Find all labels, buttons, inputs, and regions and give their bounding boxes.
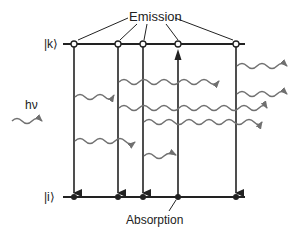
incident-photon-wave xyxy=(12,119,42,124)
absorption-label: Absorption xyxy=(126,213,183,227)
upper-level-label: |k⟩ xyxy=(44,37,58,51)
lower-level-label: |i⟩ xyxy=(44,190,55,204)
absorption-pointer-line xyxy=(169,200,176,211)
photon-label: hν xyxy=(25,98,38,112)
energy-level-diagram: Emission |k⟩ |i⟩ Absorption xyxy=(0,0,301,236)
photon-waves xyxy=(75,64,287,159)
emission-label: Emission xyxy=(129,9,182,24)
